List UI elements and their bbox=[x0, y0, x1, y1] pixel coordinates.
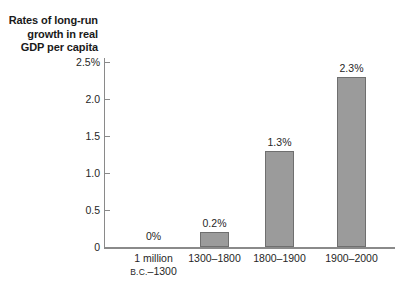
y-axis-labels: 0 0.5 1.0 1.5 2.0 2.5% bbox=[0, 0, 100, 291]
x-tick-label-3-line-1: 1800–1900 bbox=[253, 252, 306, 264]
y-tick-label-0: 0 bbox=[4, 241, 100, 253]
y-tick-mark-0 bbox=[104, 247, 110, 248]
x-tick-label-4: 1900–2000 bbox=[306, 252, 398, 265]
bar-value-label-1: 0% bbox=[124, 230, 184, 242]
bar-value-label-3: 1.3% bbox=[250, 136, 310, 148]
x-tick-label-1-line-1: 1 million bbox=[134, 252, 173, 264]
x-axis-labels: 1 million B.C.–1300 1300–1800 1800–1900 … bbox=[104, 252, 395, 291]
bar-value-label-2: 0.2% bbox=[185, 217, 245, 229]
bar-category-4 bbox=[337, 77, 366, 247]
x-tick-label-1-range: –1300 bbox=[148, 265, 177, 277]
bar-category-2 bbox=[200, 232, 229, 247]
chart-figure: Rates of long-run growth in real GDP per… bbox=[0, 0, 405, 291]
y-tick-label-3: 1.5 bbox=[4, 130, 100, 142]
bar-category-3 bbox=[265, 151, 294, 247]
x-tick-label-4-line-1: 1900–2000 bbox=[325, 252, 378, 264]
x-tick-label-1-line-2: B.C.–1300 bbox=[108, 265, 200, 279]
y-tick-label-2: 1.0 bbox=[4, 167, 100, 179]
x-axis-line bbox=[104, 247, 395, 249]
y-tick-label-5: 2.5% bbox=[4, 56, 100, 68]
y-tick-label-1: 0.5 bbox=[4, 204, 100, 216]
plot-area: 0% 0.2% 1.3% 2.3% bbox=[104, 62, 395, 247]
y-tick-label-4: 2.0 bbox=[4, 93, 100, 105]
x-tick-label-1-era: B.C. bbox=[130, 267, 147, 277]
bar-value-label-4: 2.3% bbox=[322, 62, 382, 74]
